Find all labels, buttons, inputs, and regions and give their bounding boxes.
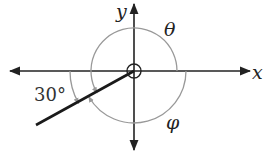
reference-angle-label: 30° (34, 84, 66, 105)
angle-diagram: y x θ φ 30° (0, 0, 267, 157)
reference-angle-arc (70, 71, 79, 103)
y-axis-label: y (115, 0, 127, 22)
phi-label: φ (166, 111, 180, 133)
theta-label: θ (164, 18, 176, 40)
x-axis-label: x (252, 61, 263, 83)
